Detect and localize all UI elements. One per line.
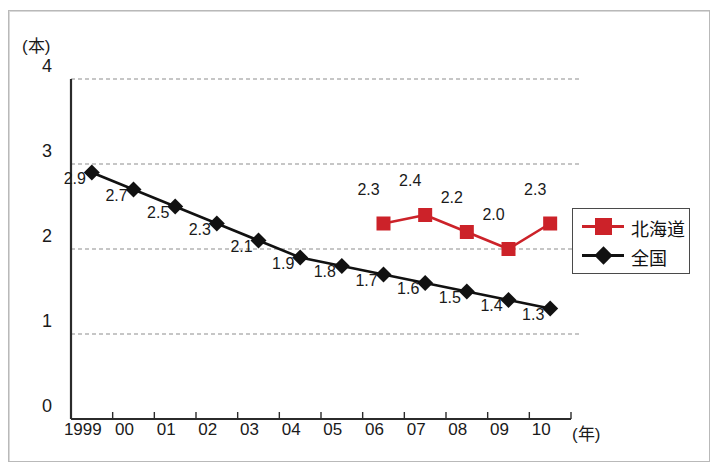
data-point-label: 2.2 xyxy=(432,189,472,207)
legend-label-national: 全国 xyxy=(631,244,667,270)
data-point-label: 2.4 xyxy=(390,172,430,190)
data-point-label: 2.3 xyxy=(515,181,555,199)
series-line-diamond xyxy=(92,173,550,309)
data-point-marker[interactable] xyxy=(502,242,516,256)
y-axis-tick-label: 3 xyxy=(22,141,52,162)
data-point-label: 2.1 xyxy=(222,238,262,256)
data-point-label: 1.7 xyxy=(347,272,387,290)
legend-item-hokkaido[interactable]: 北海道 xyxy=(573,212,691,240)
data-point-label: 2.3 xyxy=(349,181,389,199)
y-axis-tick-label: 4 xyxy=(22,56,52,77)
legend-marker-square-icon xyxy=(595,218,612,235)
data-point-label: 1.3 xyxy=(513,306,553,324)
data-point-label: 2.7 xyxy=(97,187,137,205)
legend-marker-diamond-icon xyxy=(594,246,612,264)
data-point-label: 1.4 xyxy=(472,297,512,315)
y-axis-tick-label: 1 xyxy=(22,311,52,332)
data-point-label: 2.3 xyxy=(180,221,220,239)
chart-legend: 北海道 全国 xyxy=(572,208,690,274)
y-axis-tick-label: 2 xyxy=(22,226,52,247)
data-point-label: 2.0 xyxy=(474,206,514,224)
data-point-label: 1.9 xyxy=(263,255,303,273)
data-point-marker[interactable] xyxy=(543,217,557,231)
x-axis-unit-label: (年) xyxy=(572,420,600,445)
y-axis-unit-label: (本) xyxy=(22,32,50,57)
data-point-label: 1.8 xyxy=(305,263,345,281)
x-axis-tick-label: 10 xyxy=(511,420,571,440)
legend-item-national[interactable]: 全国 xyxy=(573,241,691,269)
data-point-label: 1.6 xyxy=(388,280,428,298)
data-point-label: 1.5 xyxy=(430,289,470,307)
data-point-marker[interactable] xyxy=(460,225,474,239)
data-point-label: 2.5 xyxy=(138,204,178,222)
data-point-marker[interactable] xyxy=(418,208,432,222)
legend-label-hokkaido: 北海道 xyxy=(631,215,685,241)
data-point-label: 2.9 xyxy=(55,170,95,188)
y-axis-tick-label: 0 xyxy=(22,396,52,417)
data-point-marker[interactable] xyxy=(377,217,391,231)
